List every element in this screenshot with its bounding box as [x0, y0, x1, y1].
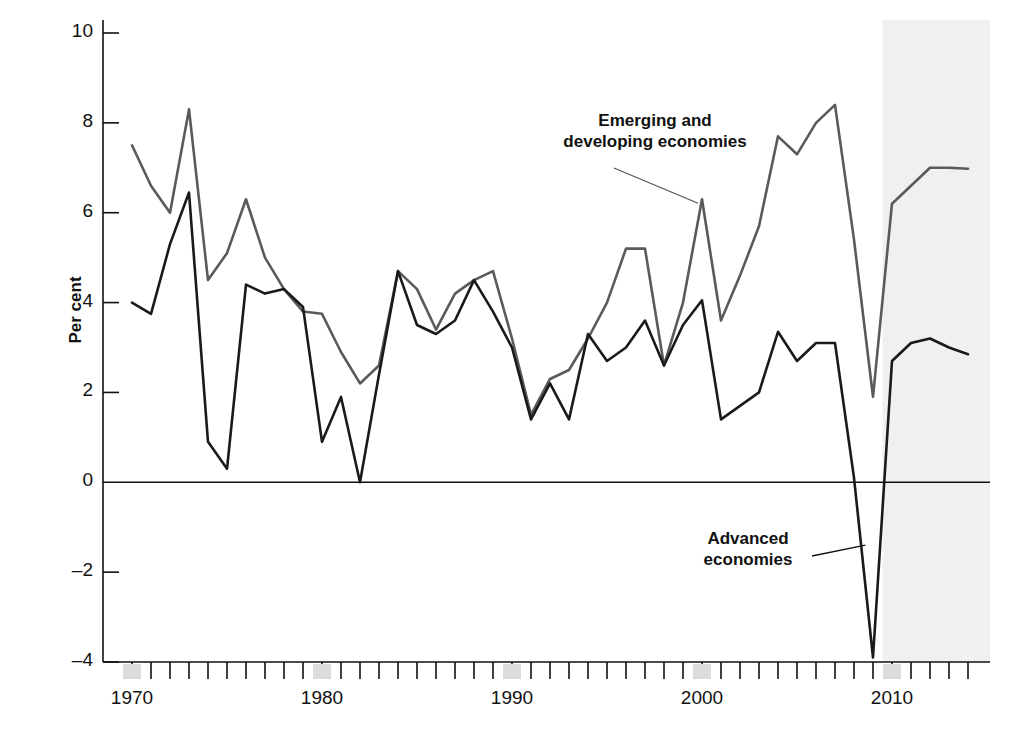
- x-tick-label: 1990: [467, 687, 557, 709]
- annotation-emerging-economies: Emerging and developing economies: [520, 110, 790, 153]
- decade-marker-band: [123, 664, 141, 679]
- decade-marker-band: [883, 664, 901, 679]
- annotation-advanced-economies: Advanced economies: [668, 528, 828, 571]
- chart-figure: Per cent Emerging and developing economi…: [0, 0, 1021, 741]
- annotation-advanced-line1: Advanced: [668, 528, 828, 549]
- y-tick-label: 4: [35, 290, 93, 312]
- y-tick-label: 6: [35, 200, 93, 222]
- y-tick-label: –4: [35, 649, 93, 671]
- decade-marker-band: [503, 664, 521, 679]
- y-tick-label: 8: [35, 110, 93, 132]
- y-tick-label: 10: [35, 20, 93, 42]
- decade-marker-band: [693, 664, 711, 679]
- y-tick-label: –2: [35, 559, 93, 581]
- x-tick-label: 2000: [657, 687, 747, 709]
- y-tick-label: 0: [35, 469, 93, 491]
- annotation-emerging-line1: Emerging and: [520, 110, 790, 131]
- annotation-emerging-line2: developing economies: [520, 131, 790, 152]
- y-tick-label: 2: [35, 379, 93, 401]
- x-tick-label: 2010: [847, 687, 937, 709]
- line-chart-plot: [0, 0, 1021, 741]
- x-tick-label: 1980: [277, 687, 367, 709]
- annotation-leader-emerging: [614, 168, 698, 203]
- annotation-advanced-line2: economies: [668, 549, 828, 570]
- decade-marker-band: [313, 664, 331, 679]
- series-line: [132, 192, 968, 657]
- x-tick-label: 1970: [87, 687, 177, 709]
